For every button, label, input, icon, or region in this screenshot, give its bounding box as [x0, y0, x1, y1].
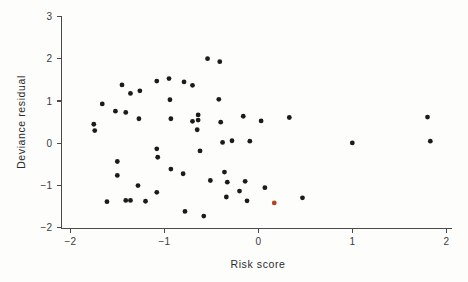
scatter-point	[218, 120, 223, 125]
scatter-point	[123, 198, 128, 203]
scatter-point	[168, 97, 173, 102]
scatter-point	[217, 59, 222, 64]
scatter-point	[225, 180, 230, 185]
y-tick-label: 2	[46, 53, 52, 64]
scatter-point	[272, 201, 277, 206]
scatter-point	[182, 80, 187, 85]
scatter-point	[123, 110, 128, 115]
scatter-point	[425, 115, 430, 120]
y-axis-label: Deviance residual	[15, 75, 27, 169]
y-tick-label: −2	[41, 222, 53, 233]
scatter-point	[237, 189, 242, 194]
scatter-point	[198, 149, 203, 154]
scatter-point	[216, 97, 221, 102]
scatter-point	[183, 209, 188, 214]
scatter-point	[155, 155, 160, 160]
scatter-plot-figure: −2−10123 −2−1012 Risk score Deviance res…	[0, 0, 468, 282]
y-tick-label: 3	[46, 11, 52, 22]
scatter-point	[128, 198, 133, 203]
scatter-point	[137, 116, 142, 121]
scatter-point	[167, 76, 172, 81]
scatter-point	[220, 140, 225, 145]
y-tick-label: 1	[46, 96, 52, 107]
y-axis: −2−10123	[41, 11, 62, 234]
scatter-point	[154, 146, 159, 151]
scatter-point	[154, 190, 159, 195]
scatter-point	[224, 195, 229, 200]
scatter-point	[136, 183, 141, 188]
scatter-point	[241, 114, 246, 119]
x-tick-label: −1	[159, 236, 171, 247]
scatter-point	[205, 56, 210, 61]
scatter-point	[120, 83, 125, 88]
scatter-point	[201, 214, 206, 219]
scatter-point	[247, 139, 252, 144]
x-tick-group: −2−1012	[65, 229, 450, 248]
scatter-point	[181, 171, 186, 176]
x-tick-label: −2	[65, 236, 77, 247]
scatter-point	[350, 140, 355, 145]
scatter-point	[262, 185, 267, 190]
x-tick-label: 2	[444, 236, 450, 247]
data-points-layer	[91, 56, 432, 218]
scatter-point	[143, 199, 148, 204]
scatter-point	[91, 122, 96, 127]
x-tick-label: 1	[350, 236, 356, 247]
scatter-point	[128, 91, 133, 96]
scatter-point	[195, 127, 200, 132]
scatter-point	[137, 88, 142, 93]
scatter-point	[196, 113, 201, 118]
scatter-point	[154, 79, 159, 84]
scatter-point	[190, 119, 195, 124]
x-axis: −2−1012	[62, 229, 453, 248]
scatter-point	[428, 139, 433, 144]
scatter-point	[100, 102, 105, 107]
x-axis-label: Risk score	[230, 258, 285, 270]
scatter-point	[196, 118, 201, 123]
scatter-point	[113, 109, 118, 114]
scatter-point	[115, 159, 120, 164]
scatter-point	[105, 199, 110, 204]
scatter-point	[92, 128, 97, 133]
scatter-point	[168, 116, 173, 121]
plot-canvas: −2−10123 −2−1012 Risk score Deviance res…	[0, 0, 468, 282]
scatter-point	[230, 138, 235, 143]
y-tick-group: −2−10123	[41, 11, 62, 234]
scatter-point	[300, 195, 305, 200]
scatter-point	[287, 115, 292, 120]
scatter-point	[168, 167, 173, 172]
y-tick-label: 0	[46, 138, 52, 149]
scatter-point	[222, 170, 227, 175]
scatter-point	[245, 198, 250, 203]
x-tick-label: 0	[256, 236, 262, 247]
scatter-point	[208, 178, 213, 183]
scatter-point	[259, 118, 264, 123]
scatter-point	[190, 83, 195, 88]
scatter-point	[243, 179, 248, 184]
scatter-point	[115, 173, 120, 178]
y-tick-label: −1	[41, 180, 53, 191]
